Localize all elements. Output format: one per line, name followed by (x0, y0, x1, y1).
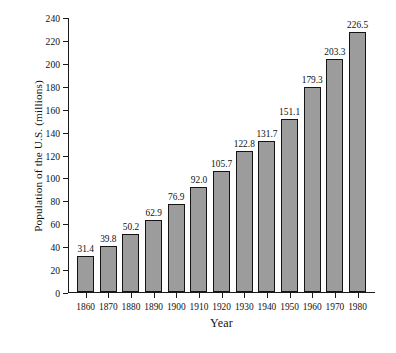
x-tick-label: 1920 (212, 302, 231, 312)
y-tick-mark (63, 41, 68, 42)
bar[interactable] (349, 32, 366, 292)
bar-value-label: 179.3 (302, 75, 323, 85)
y-tick-mark (63, 110, 68, 111)
y-tick-mark (63, 293, 68, 294)
x-tick-label: 1930 (235, 302, 254, 312)
x-tick-label: 1970 (326, 302, 345, 312)
bar[interactable] (145, 220, 162, 292)
x-tick-label: 1870 (99, 302, 118, 312)
x-tick-mark (176, 293, 177, 298)
y-tick-mark (63, 247, 68, 248)
x-tick-mark (131, 293, 132, 298)
bar-value-label: 151.1 (279, 107, 300, 117)
bar-value-label: 105.7 (211, 159, 232, 169)
y-tick-mark (63, 156, 68, 157)
bar[interactable] (326, 59, 343, 292)
x-tick-label: 1890 (144, 302, 163, 312)
x-tick-label: 1910 (190, 302, 209, 312)
x-tick-mark (358, 293, 359, 298)
bar-value-label: 92.0 (191, 175, 207, 185)
bar[interactable] (304, 87, 321, 292)
bar[interactable] (77, 256, 94, 292)
bar[interactable] (258, 141, 275, 292)
x-tick-label: 1880 (122, 302, 141, 312)
x-tick-mark (244, 293, 245, 298)
bar-value-label: 226.5 (347, 20, 368, 30)
y-tick-mark (63, 178, 68, 179)
x-tick-label: 1980 (348, 302, 367, 312)
y-tick-mark (63, 224, 68, 225)
y-tick-label: 240 (46, 13, 60, 24)
y-axis-title: Population of the U.S. (millions) (32, 36, 44, 276)
bar-value-label: 122.8 (234, 139, 255, 149)
y-tick-label: 140 (46, 127, 60, 138)
y-tick-label: 100 (46, 173, 60, 184)
x-tick-mark (290, 293, 291, 298)
bar-value-label: 203.3 (324, 47, 345, 57)
chart-figure: Population of the U.S. (millions) 020406… (0, 0, 396, 353)
y-tick-mark (63, 87, 68, 88)
x-tick-mark (267, 293, 268, 298)
y-tick-label: 160 (46, 104, 60, 115)
x-tick-label: 1950 (280, 302, 299, 312)
bar-value-label: 50.2 (123, 222, 139, 232)
bar-value-label: 62.9 (145, 208, 161, 218)
y-tick-mark (63, 133, 68, 134)
x-tick-label: 1900 (167, 302, 186, 312)
y-tick-label: 80 (50, 196, 60, 207)
bar[interactable] (281, 119, 298, 292)
x-tick-mark (222, 293, 223, 298)
x-tick-mark (312, 293, 313, 298)
x-tick-mark (86, 293, 87, 298)
bar-value-label: 39.8 (100, 234, 116, 244)
x-axis-title: Year (68, 316, 375, 331)
y-tick-label: 60 (50, 219, 60, 230)
x-tick-mark (154, 293, 155, 298)
bar-value-label: 76.9 (168, 192, 184, 202)
y-axis-line (68, 18, 69, 293)
y-tick-mark (63, 201, 68, 202)
bar[interactable] (100, 246, 117, 292)
x-tick-label: 1940 (258, 302, 277, 312)
x-tick-mark (335, 293, 336, 298)
y-tick-label: 0 (55, 288, 60, 299)
x-tick-mark (108, 293, 109, 298)
bar[interactable] (236, 151, 253, 292)
bar[interactable] (190, 187, 207, 292)
bar[interactable] (122, 234, 139, 292)
bar-value-label: 31.4 (77, 244, 93, 254)
bar-value-label: 131.7 (256, 129, 277, 139)
y-tick-mark (63, 18, 68, 19)
y-tick-label: 20 (50, 265, 60, 276)
y-tick-label: 200 (46, 58, 60, 69)
y-tick-label: 180 (46, 81, 60, 92)
y-tick-label: 120 (46, 150, 60, 161)
bar[interactable] (213, 171, 230, 292)
y-tick-label: 220 (46, 35, 60, 46)
x-tick-mark (199, 293, 200, 298)
y-tick-mark (63, 64, 68, 65)
bar[interactable] (168, 204, 185, 292)
x-tick-label: 1960 (303, 302, 322, 312)
y-tick-mark (63, 270, 68, 271)
plot-area: 020406080100120140160180200220240 186018… (68, 18, 375, 293)
x-tick-label: 1860 (76, 302, 95, 312)
y-tick-label: 40 (50, 242, 60, 253)
